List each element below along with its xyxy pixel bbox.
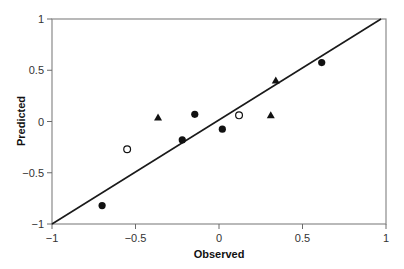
x-tick-label: −0.5 xyxy=(125,232,147,244)
y-tick-label: −0.5 xyxy=(22,167,44,179)
open-circle-marker xyxy=(124,146,131,153)
fit-line xyxy=(52,19,381,224)
filled-circle-marker xyxy=(179,136,186,143)
x-tick-label: −1 xyxy=(46,232,59,244)
y-tick-label: 0 xyxy=(38,116,44,128)
triangle-marker xyxy=(267,111,275,118)
y-tick-label: −1 xyxy=(31,218,44,230)
y-axis-title: Predicted xyxy=(15,96,27,146)
x-tick-label: 0.5 xyxy=(295,232,310,244)
regression-line xyxy=(52,19,381,224)
filled-circle-marker xyxy=(318,59,325,66)
y-tick-label: 1 xyxy=(38,13,44,25)
data-points xyxy=(99,59,326,209)
y-tick-label: 0.5 xyxy=(29,64,44,76)
filled-circle-marker xyxy=(191,111,198,118)
filled-circle-marker xyxy=(219,126,226,133)
filled-circle-marker xyxy=(99,202,106,209)
scatter-chart: −1−0.500.51−1−0.500.51 Observed Predicte… xyxy=(0,0,404,269)
triangle-marker xyxy=(272,77,280,84)
open-circle-marker xyxy=(236,112,243,119)
x-axis-title: Observed xyxy=(194,248,245,260)
x-tick-label: 1 xyxy=(383,232,389,244)
triangle-marker xyxy=(154,113,162,120)
x-tick-label: 0 xyxy=(216,232,222,244)
